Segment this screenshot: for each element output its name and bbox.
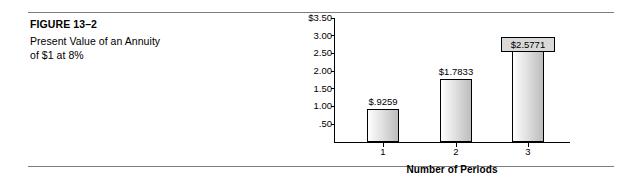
figure-number: FIGURE 13–2 (30, 18, 230, 31)
y-tick-mark-2-00 (331, 71, 335, 72)
figure-caption-line-2: of $1 at 8% (30, 48, 230, 62)
y-tick-label-1-50: 1.50 (300, 84, 332, 94)
bar-period-2 (440, 79, 472, 142)
bar-period-1 (367, 109, 399, 142)
figure-caption-line-1: Present Value of an Annuity (30, 34, 230, 48)
y-tick-label-0-50: .50 (300, 119, 332, 129)
x-tick-label-1: 1 (363, 146, 403, 157)
x-axis-line (334, 142, 570, 143)
y-tick-label-2-50: 2.50 (300, 48, 332, 58)
bar-label-period-2: $1.7833 (428, 66, 484, 77)
y-tick-label-1-00: 1.00 (300, 101, 332, 111)
x-tick-label-2: 2 (436, 146, 476, 157)
bar-label-period-1: $.9259 (356, 96, 410, 107)
y-tick-label-2-00: 2.00 (300, 66, 332, 76)
y-tick-label-3-00: 3.00 (300, 31, 332, 41)
bar-period-3 (512, 51, 544, 142)
figure-page: FIGURE 13–2 Present Value of an Annuity … (0, 0, 637, 178)
y-tick-mark-2-50 (331, 53, 335, 54)
x-axis-title: Number of Periods (334, 164, 570, 175)
y-tick-mark-3-50 (331, 18, 335, 19)
figure-caption: FIGURE 13–2 Present Value of an Annuity … (30, 18, 230, 62)
bar-chart: $3.50 3.00 2.50 2.00 1.50 1.00 .50 $.925… (300, 16, 600, 161)
bar-label-period-3: $2.5771 (501, 37, 555, 52)
y-tick-label-3-50: $3.50 (300, 13, 332, 23)
y-tick-mark-1-00 (331, 106, 335, 107)
y-tick-mark-0-50 (331, 124, 335, 125)
y-tick-mark-3-00 (331, 35, 335, 36)
y-tick-mark-1-50 (331, 88, 335, 89)
x-tick-label-3: 3 (508, 146, 548, 157)
